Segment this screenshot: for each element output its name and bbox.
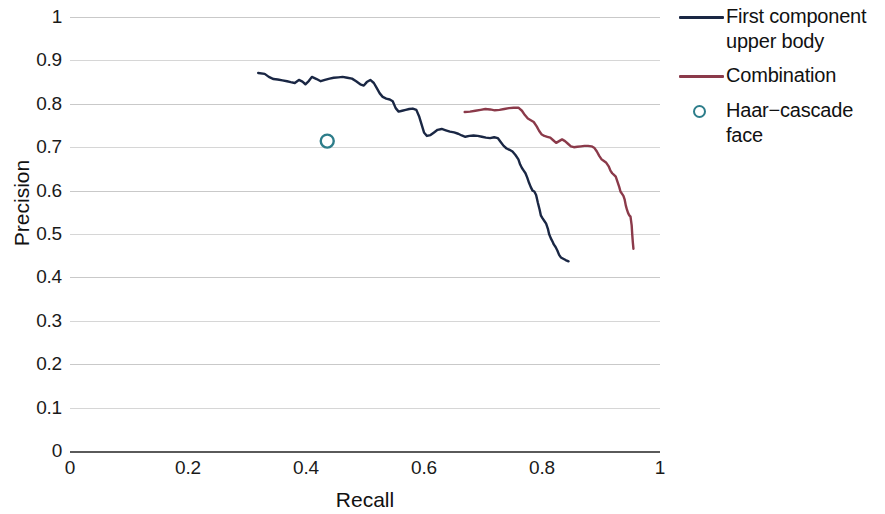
legend-item-label: Combination: [726, 63, 836, 88]
y-tick-label: 0.7: [36, 136, 62, 158]
y-tick-label: 1: [52, 6, 62, 28]
legend-item[interactable]: Combination: [676, 63, 881, 89]
y-tick-label: 0.8: [36, 93, 62, 115]
x-tick-label: 0.4: [293, 457, 319, 479]
x-tick-label: 0.6: [411, 457, 437, 479]
legend-circle-marker-icon: [693, 105, 706, 118]
precision-recall-chart: 00.10.20.30.40.50.60.70.80.91 00.20.40.6…: [0, 0, 885, 514]
y-tick-label: 0.5: [36, 223, 62, 245]
series-layer: [70, 17, 660, 451]
x-tick-label: 1: [655, 457, 665, 479]
legend-item[interactable]: First component upper body: [676, 4, 881, 54]
legend-line-key: [676, 4, 726, 30]
y-tick-label: 0.6: [36, 180, 62, 202]
y-axis-title: Precision: [10, 103, 34, 303]
legend-item[interactable]: Haar−cascade face: [676, 98, 881, 148]
legend-item-label: First component upper body: [726, 4, 881, 54]
plot-area: [70, 17, 660, 451]
x-tick-label: 0: [65, 457, 75, 479]
y-tick-label: 0.4: [36, 266, 62, 288]
series-line: [258, 73, 568, 261]
x-axis-tick-labels: 00.20.40.60.81: [0, 457, 885, 487]
legend: First component upper bodyCombinationHaa…: [676, 4, 881, 157]
series-line: [465, 108, 634, 249]
y-tick-label: 0.1: [36, 397, 62, 419]
x-axis-line: [70, 451, 660, 453]
legend-line-swatch: [679, 75, 724, 78]
y-tick-label: 0.3: [36, 310, 62, 332]
x-tick-label: 0.8: [529, 457, 555, 479]
y-tick-label: 0.9: [36, 49, 62, 71]
x-axis-title: Recall: [70, 488, 660, 512]
legend-line-key: [676, 63, 726, 89]
legend-item-label: Haar−cascade face: [726, 98, 881, 148]
scatter-marker: [321, 135, 334, 148]
legend-line-swatch: [679, 16, 724, 19]
y-tick-label: 0.2: [36, 353, 62, 375]
legend-marker-key: [676, 98, 726, 124]
x-tick-label: 0.2: [175, 457, 201, 479]
